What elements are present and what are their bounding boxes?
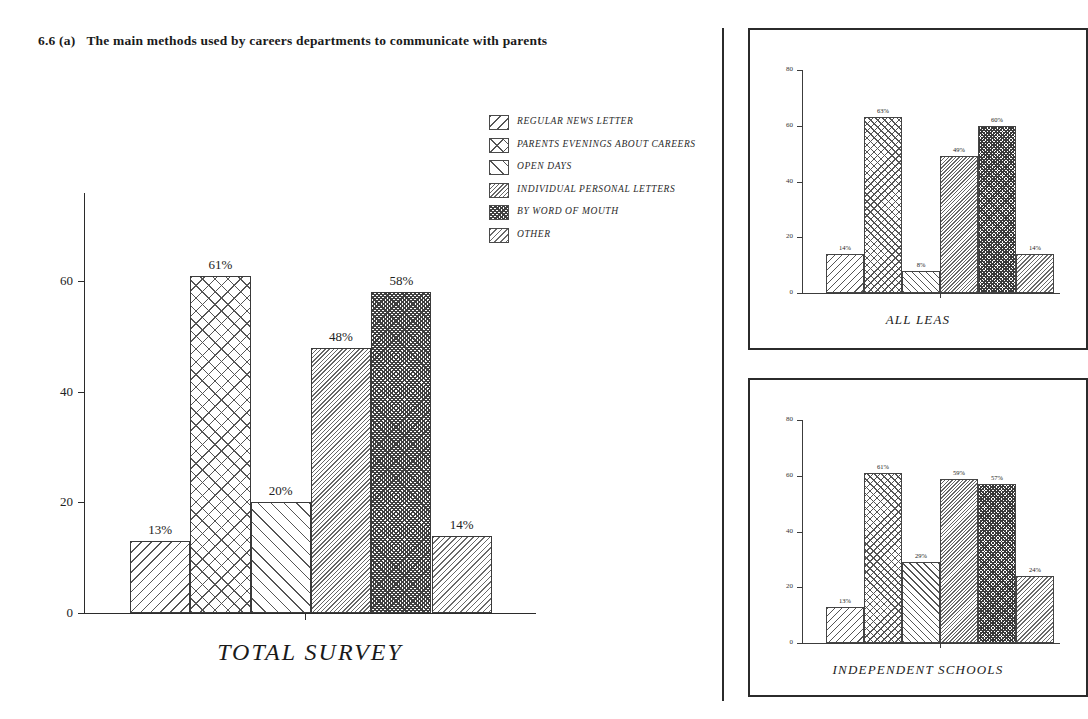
bar [130,541,190,613]
y-tick-mark [78,613,85,614]
bar [251,502,311,613]
panel-y-tick-mark [797,126,802,127]
panel-caption: ALL LEAS [750,312,1086,328]
panel-y-tick-mark [797,293,802,294]
panel-bar [978,126,1016,293]
legend-label: OTHER [517,229,551,239]
section-divider [722,28,724,701]
y-tick-mark [78,392,85,393]
panel-bar-value-label: 59% [940,469,978,476]
panel-y-tick-mark [797,476,802,477]
panel-bar-value-label: 63% [864,107,902,114]
panel-bar-value-label: 14% [826,244,864,251]
y-tick-label: 0 [33,605,73,621]
bar [371,292,431,613]
bar [190,276,250,613]
bar-value-label: 48% [311,329,371,345]
panel-bar [940,156,978,293]
panel-y-tick-label: 80 [771,415,793,423]
main-chart-x-axis [84,613,536,614]
legend-swatch-dense-cross-hatch [489,205,509,220]
panel-y-tick-label: 0 [771,638,793,646]
y-tick-label: 60 [33,273,73,289]
panel-y-axis [802,420,803,643]
panel-y-tick-mark [797,182,802,183]
panel-bar [864,473,902,643]
panel-y-tick-label: 80 [771,65,793,73]
y-tick-label: 20 [33,494,73,510]
main-chart-total-survey: 0204060 13%61%20%48%58%14% TOTAL SURVEY [0,0,722,719]
panel-y-tick-label: 40 [771,177,793,185]
panel-bar-value-label: 57% [978,474,1016,481]
panel-x-midtick [940,293,941,298]
bar-value-label: 14% [432,517,492,533]
panel-bar-value-label: 49% [940,146,978,153]
panel-y-tick-mark [797,643,802,644]
panel-y-tick-mark [797,70,802,71]
panel-bar-value-label: 29% [902,552,940,559]
panel-y-tick-label: 60 [771,471,793,479]
panel-all-leas-plot: 02040608014%63%8%49%60%14%ALL LEAS [750,30,1086,348]
panel-y-axis [802,70,803,293]
panel-bar [902,271,940,293]
legend-swatch-fine-back-hatch [489,183,509,198]
bar [432,536,492,613]
panel-bar [940,479,978,643]
panel-y-tick-mark [797,587,802,588]
legend-label: BY WORD OF MOUTH [517,206,619,216]
panel-y-tick-label: 20 [771,582,793,590]
bar-value-label: 13% [130,522,190,538]
y-tick-label: 40 [33,384,73,400]
bar-value-label: 20% [251,483,311,499]
panel-y-tick-label: 0 [771,288,793,296]
panel-bar [902,562,940,643]
panel-bar-value-label: 13% [826,597,864,604]
panel-bar-value-label: 14% [1016,244,1054,251]
panel-bar-value-label: 24% [1016,566,1054,573]
panel-bar [1016,254,1054,293]
legend-label: REGULAR NEWS LETTER [517,116,633,126]
main-chart-x-midtick [305,613,306,620]
panel-bar [978,484,1016,643]
bar-value-label: 61% [190,257,250,273]
panel-y-tick-mark [797,532,802,533]
panel-x-axis [802,643,1060,644]
legend-label: OPEN DAYS [517,161,572,171]
panel-y-tick-mark [797,237,802,238]
panel-bar [864,117,902,293]
panel-independent-schools: 02040608013%61%29%59%57%24%INDEPENDENT S… [748,378,1088,697]
panel-all-leas: 02040608014%63%8%49%60%14%ALL LEAS [748,28,1088,350]
panel-y-tick-label: 20 [771,232,793,240]
legend-swatch-diagonal-back-hatch [489,115,509,130]
panel-bar-value-label: 8% [902,261,940,268]
y-tick-mark [78,502,85,503]
y-tick-mark [78,281,85,282]
bar-value-label: 58% [371,273,431,289]
legend-swatch-diagonal-forward-hatch [489,160,509,175]
main-chart-y-axis [84,193,85,614]
legend-label: INDIVIDUAL PERSONAL LETTERS [517,184,675,194]
legend-swatch-cross-diamond-hatch [489,138,509,153]
panel-bar [1016,576,1054,643]
panel-caption: INDEPENDENT SCHOOLS [750,662,1086,678]
panel-bar-value-label: 60% [978,116,1016,123]
panel-bar-value-label: 61% [864,463,902,470]
panel-x-midtick [940,643,941,648]
panel-bar [826,607,864,643]
panel-independent-schools-plot: 02040608013%61%29%59%57%24%INDEPENDENT S… [750,380,1086,695]
bar [311,348,371,613]
legend-label: PARENTS EVENINGS ABOUT CAREERS [517,139,696,149]
panel-x-axis [802,293,1060,294]
main-chart-caption: TOTAL SURVEY [84,639,536,666]
legend-swatch-fine-forward-hatch [489,228,509,243]
panel-y-tick-label: 60 [771,121,793,129]
panel-y-tick-mark [797,420,802,421]
panel-y-tick-label: 40 [771,527,793,535]
panel-bar [826,254,864,293]
